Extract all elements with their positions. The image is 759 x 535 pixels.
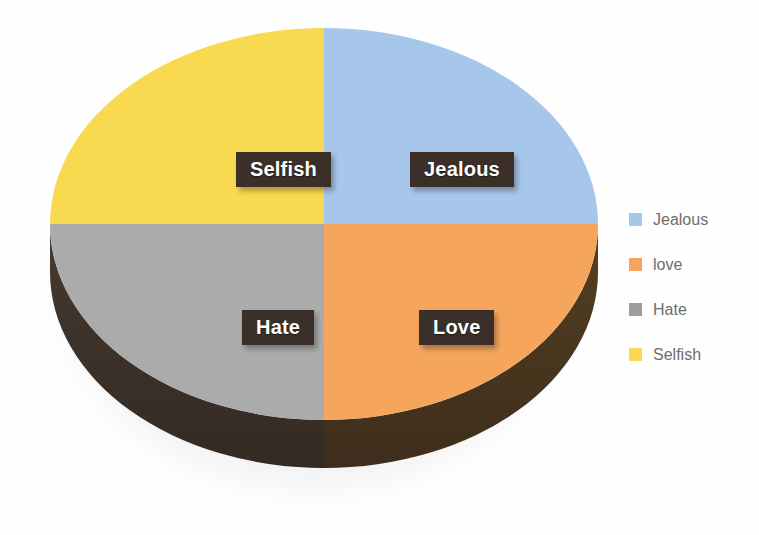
pie-slice-selfish[interactable] (50, 28, 324, 224)
legend-swatch-love (629, 258, 642, 271)
pie-graphic[interactable]: Selfish Jealous Hate Love (46, 22, 606, 512)
legend-item-love[interactable]: love (629, 242, 754, 287)
slice-data-label-hate: Hate (242, 310, 314, 345)
legend-item-hate[interactable]: Hate (629, 287, 754, 332)
legend-swatch-selfish (629, 348, 642, 361)
legend-swatch-hate (629, 303, 642, 316)
legend-label-love: love (653, 257, 682, 273)
pie-slice-jealous[interactable] (324, 28, 598, 224)
slice-data-label-selfish: Selfish (236, 152, 331, 187)
chart-legend: Jealous love Hate Selfish (629, 197, 754, 377)
legend-item-selfish[interactable]: Selfish (629, 332, 754, 377)
legend-item-jealous[interactable]: Jealous (629, 197, 754, 242)
legend-label-hate: Hate (653, 302, 687, 318)
slice-data-label-jealous: Jealous (410, 152, 514, 187)
legend-label-jealous: Jealous (653, 212, 708, 228)
pie-chart: Selfish Jealous Hate Love Jealous love H… (0, 0, 759, 535)
legend-swatch-jealous (629, 213, 642, 226)
slice-data-label-love: Love (419, 310, 494, 345)
pie-svg (46, 22, 606, 512)
legend-label-selfish: Selfish (653, 347, 701, 363)
